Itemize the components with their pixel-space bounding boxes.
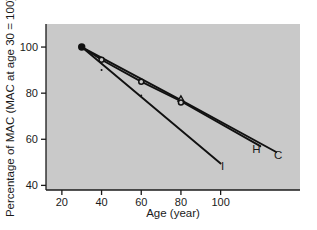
y-axis-title: Percentage of MAC (MAC at age 30 = 100) (4, 0, 16, 217)
marker-open-circle-40 (99, 57, 104, 62)
marker-small-dot-40 (101, 69, 103, 71)
x-tick-label-40: 40 (95, 196, 107, 208)
mac-vs-age-line-chart: 406080100 20406080100 CHI Age (year) Per… (0, 0, 317, 230)
y-tick-label-80: 80 (26, 87, 38, 99)
y-tick-label-60: 60 (26, 133, 38, 145)
x-tick-label-100: 100 (211, 196, 229, 208)
series-label-I: I (221, 160, 224, 172)
marker-filled-circle-30 (79, 44, 85, 50)
marker-open-circle-60 (139, 79, 144, 84)
chart-figure: 406080100 20406080100 CHI Age (year) Per… (0, 0, 317, 230)
x-tick-label-20: 20 (56, 196, 68, 208)
y-tick-label-100: 100 (20, 41, 38, 53)
series-label-C: C (274, 149, 282, 161)
series-label-H: H (252, 143, 260, 155)
marker-open-circle-80 (178, 100, 183, 105)
y-tick-label-40: 40 (26, 179, 38, 191)
x-axis-title: Age (year) (146, 207, 200, 219)
marker-small-dot-60 (140, 94, 142, 96)
